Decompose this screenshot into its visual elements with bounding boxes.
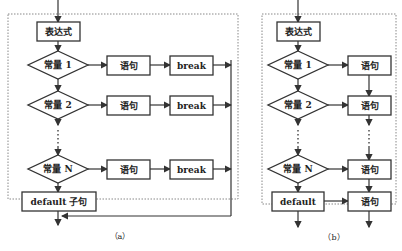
- panel-b: 表达式 常量 1 语句 常量 2 语句 常量 N 语句 default: [262, 0, 396, 242]
- default-statement: 语句: [361, 196, 379, 207]
- case-n-break: break: [177, 165, 207, 175]
- case-1-constant: 常量 1: [284, 59, 311, 70]
- case-2-break: break: [177, 101, 207, 111]
- expression-label: 表达式: [284, 26, 312, 37]
- case-n-constant: 常量 N: [283, 163, 312, 174]
- switch-flowchart: 表达式 常量 1 语句 break 常量 2 语句 break 常量 N 语句: [0, 0, 402, 251]
- case-n-statement: 语句: [120, 164, 138, 175]
- default-label: default 子句: [31, 196, 88, 207]
- case-n-constant: 常量 N: [43, 163, 72, 174]
- expression-label: 表达式: [44, 26, 72, 37]
- caption-b: （b）: [323, 233, 344, 242]
- case-2-constant: 常量 2: [44, 99, 71, 110]
- case-2-statement: 语句: [120, 100, 138, 111]
- default-label: default: [280, 197, 317, 207]
- case-2-statement: 语句: [361, 100, 379, 111]
- case-1-statement: 语句: [120, 60, 138, 71]
- panel-a: 表达式 常量 1 语句 break 常量 2 语句 break 常量 N 语句: [8, 0, 238, 241]
- case-n-statement: 语句: [361, 164, 379, 175]
- case-1-constant: 常量 1: [44, 59, 71, 70]
- case-1-statement: 语句: [361, 60, 379, 71]
- case-2-constant: 常量 2: [284, 99, 311, 110]
- case-1-break: break: [177, 61, 207, 71]
- caption-a: （a）: [110, 232, 131, 241]
